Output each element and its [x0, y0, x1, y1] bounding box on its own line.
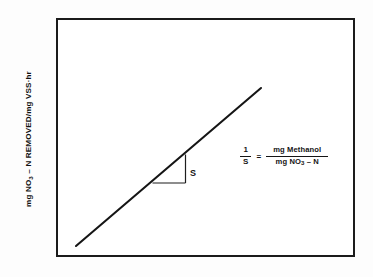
figure-root: mg NO3 – N REMOVED/mg VSS·hr S 1 S = mg …	[0, 0, 373, 277]
equation-equals-sign: =	[256, 152, 261, 161]
equation-right-denominator: mg NO3 – N	[273, 157, 322, 167]
y-axis-label-suffix: – N REMOVED/mg VSS·hr	[24, 71, 33, 176]
equation-right-denominator-subscript: 3	[301, 159, 305, 166]
equation-right-numerator: mg Methanol	[270, 146, 324, 156]
equation-annotation: 1 S = mg Methanol mg NO3 – N	[240, 146, 328, 167]
equation-right-denominator-prefix: mg NO	[276, 157, 301, 166]
slope-label: S	[190, 168, 196, 178]
plot-frame	[56, 18, 355, 257]
y-axis-label-prefix: mg NO	[24, 179, 33, 206]
y-axis-label: mg NO3 – N REMOVED/mg VSS·hr	[24, 71, 33, 207]
y-axis-label-container: mg NO3 – N REMOVED/mg VSS·hr	[0, 0, 56, 277]
equation-left-fraction: 1 S	[240, 146, 251, 167]
equation-left-denominator: S	[240, 157, 251, 167]
equation-right-denominator-suffix: – N	[305, 157, 319, 166]
equation-left-numerator: 1	[240, 146, 251, 156]
equation-right-fraction: mg Methanol mg NO3 – N	[266, 146, 328, 166]
y-axis-label-subscript: 3	[26, 176, 33, 180]
